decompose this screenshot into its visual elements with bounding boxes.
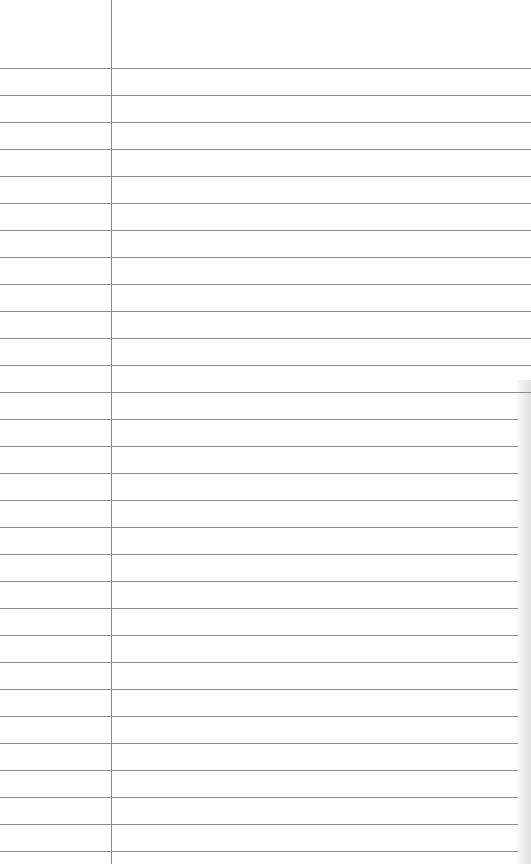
ruled-line	[0, 122, 531, 123]
ruled-line	[0, 473, 518, 474]
ruled-line	[0, 527, 518, 528]
ruled-line	[0, 770, 518, 771]
ruled-line	[0, 149, 531, 150]
ruled-line	[0, 68, 531, 69]
margin-line	[111, 0, 112, 864]
ruled-line	[0, 95, 531, 96]
ruled-line	[0, 176, 531, 177]
ruled-line	[0, 662, 518, 663]
ruled-line	[0, 635, 518, 636]
ruled-line	[0, 716, 518, 717]
ruled-line	[0, 203, 531, 204]
notepad-page	[0, 0, 531, 864]
ruled-line	[0, 230, 531, 231]
ruled-line	[0, 392, 531, 393]
ruled-line	[0, 824, 518, 825]
ruled-line	[0, 365, 531, 366]
ruled-line	[0, 554, 518, 555]
ruled-line	[0, 257, 531, 258]
ruled-line	[0, 581, 518, 582]
ruled-line	[0, 419, 518, 420]
ruled-line	[0, 797, 518, 798]
ruled-line	[0, 311, 531, 312]
ruled-line	[0, 851, 518, 852]
ruled-line	[0, 284, 531, 285]
page-edge-shadow	[515, 380, 531, 864]
ruled-line	[0, 338, 531, 339]
ruled-line	[0, 689, 518, 690]
ruled-line	[0, 446, 518, 447]
ruled-line	[0, 500, 518, 501]
ruled-line	[0, 608, 518, 609]
ruled-line	[0, 743, 518, 744]
